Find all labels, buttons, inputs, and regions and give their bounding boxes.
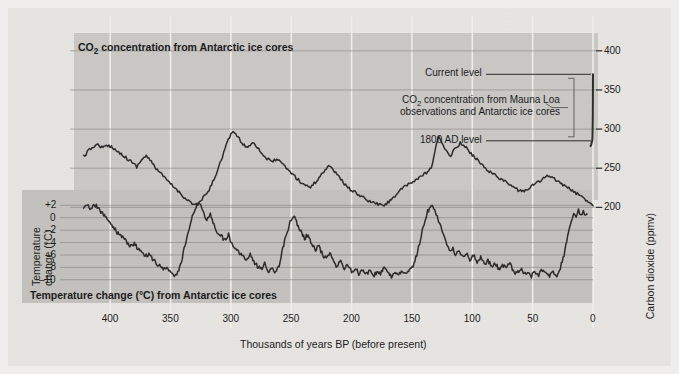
x-axis-title: Thousands of years BP (before present) <box>240 338 427 350</box>
x-tick-label: 150 <box>403 313 420 324</box>
x-tick-label: 400 <box>102 313 119 324</box>
x-tick-label: 100 <box>464 313 481 324</box>
co2-panel-title: CO2 concentration from Antarctic ice cor… <box>78 41 293 56</box>
co2-axis-title: Carbon dioxide (ppmv) <box>644 213 656 319</box>
temperature-tick-label: –4 <box>45 237 56 248</box>
temperature-tick-label: +2 <box>45 199 56 210</box>
x-tick-label: 200 <box>343 313 360 324</box>
co2-tick-label: 400 <box>604 45 621 56</box>
temperature-tick-label: –10 <box>39 274 56 285</box>
annotation-1800-ad-level: 1800 AD level <box>420 134 482 145</box>
temperature-panel-title: Temperature change (°C) from Antarctic i… <box>30 289 277 301</box>
x-tick-label: 0 <box>590 313 596 324</box>
temperature-tick-label: –6 <box>45 249 56 260</box>
co2-tick-label: 350 <box>604 84 621 95</box>
x-tick-label: 300 <box>222 313 239 324</box>
annotation-mauna-loa-line2: observations and Antarctic ice cores <box>400 106 560 117</box>
co2-tick-label: 200 <box>604 201 621 212</box>
x-tick-label: 50 <box>527 313 538 324</box>
temperature-tick-label: –2 <box>45 224 56 235</box>
x-tick-label: 250 <box>283 313 300 324</box>
climate-figure: CO2 concentration from Antarctic ice cor… <box>8 8 671 366</box>
temperature-tick-label: –8 <box>45 261 56 272</box>
annotation-current-level: Current level <box>425 67 482 78</box>
co2-tick-label: 300 <box>604 123 621 134</box>
co2-tick-label: 250 <box>604 162 621 173</box>
x-tick-label: 350 <box>162 313 179 324</box>
temperature-tick-label: 0 <box>50 212 56 223</box>
